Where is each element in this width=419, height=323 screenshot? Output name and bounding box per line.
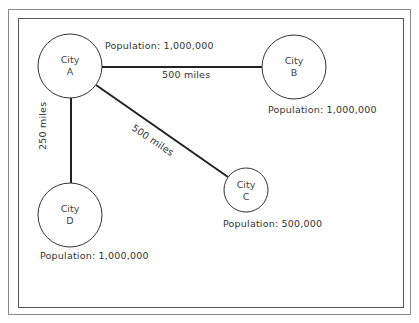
distance-a-b: 500 miles xyxy=(162,69,210,80)
city-a-name: City xyxy=(50,54,90,66)
city-c-label: City C xyxy=(226,179,266,203)
edge-a-c xyxy=(96,85,228,177)
city-a-population: Population: 1,000,000 xyxy=(105,40,214,51)
city-d-letter: D xyxy=(50,215,90,227)
city-d-label: City D xyxy=(50,203,90,227)
city-c-population: Population: 500,000 xyxy=(223,218,322,229)
city-a-label: City A xyxy=(50,54,90,78)
city-b-name: City xyxy=(274,55,314,67)
distance-a-d: 250 miles xyxy=(37,102,48,150)
city-d-name: City xyxy=(50,203,90,215)
city-a-letter: A xyxy=(50,66,90,78)
city-b-label: City B xyxy=(274,55,314,79)
city-c-letter: C xyxy=(226,191,266,203)
city-b-population: Population: 1,000,000 xyxy=(268,104,377,115)
city-c-name: City xyxy=(226,179,266,191)
city-d-population: Population: 1,000,000 xyxy=(40,250,149,261)
city-b-letter: B xyxy=(274,67,314,79)
